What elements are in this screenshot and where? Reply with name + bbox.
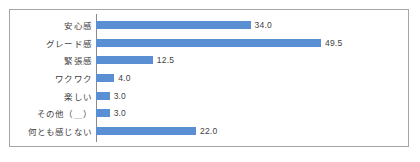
category-label: グレード感 (10, 37, 96, 49)
bar-row: ワクワク 4.0 (10, 69, 408, 86)
bar-track: 12.5 (96, 52, 408, 69)
bar (96, 56, 153, 64)
bar-row: 安心感 34.0 (10, 16, 408, 33)
plot-area: 安心感 34.0 グレード感 49.5 緊張感 12.5 (10, 10, 408, 146)
bar-row: 何とも感じない 22.0 (10, 123, 408, 140)
bar-row: 楽しい 3.0 (10, 87, 408, 104)
bar (96, 127, 196, 135)
bar (96, 39, 321, 47)
bar-track: 22.0 (96, 123, 408, 140)
bar-row: その他（＿） 3.0 (10, 105, 408, 122)
category-label: 何とも感じない (10, 125, 96, 137)
bar-track: 34.0 (96, 16, 408, 33)
bar-value-label: 12.5 (157, 55, 174, 65)
bar-value-label: 3.0 (114, 91, 126, 101)
bar-value-label: 49.5 (325, 38, 342, 48)
bar-track: 3.0 (96, 87, 408, 104)
bar (96, 21, 251, 29)
bar (96, 74, 114, 82)
bar-track: 49.5 (96, 34, 408, 51)
category-label: その他（＿） (10, 107, 96, 119)
category-label: 安心感 (10, 19, 96, 31)
category-label: 緊張感 (10, 54, 96, 66)
category-label: ワクワク (10, 72, 96, 84)
bar-value-label: 3.0 (114, 108, 126, 118)
category-label: 楽しい (10, 90, 96, 102)
bar-rows: 安心感 34.0 グレード感 49.5 緊張感 12.5 (10, 16, 408, 140)
bar-row: グレード感 49.5 (10, 34, 408, 51)
bar-value-label: 22.0 (200, 126, 217, 136)
bar (96, 92, 110, 100)
bar-value-label: 34.0 (255, 20, 272, 30)
bar-track: 3.0 (96, 105, 408, 122)
bar-row: 緊張感 12.5 (10, 52, 408, 69)
bar-value-label: 4.0 (118, 73, 130, 83)
bar (96, 109, 110, 117)
bar-track: 4.0 (96, 69, 408, 86)
chart-frame: 安心感 34.0 グレード感 49.5 緊張感 12.5 (9, 9, 409, 147)
